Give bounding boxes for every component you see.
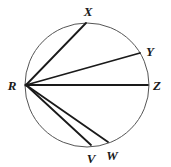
chord-r-w [26,85,108,142]
geometry-figure: R X Y Z W V [0,0,171,167]
point-label-y: Y [146,45,154,58]
point-label-w: W [106,149,118,162]
point-label-r: R [8,79,17,92]
chord-r-y [26,53,140,85]
point-label-x: X [84,5,93,18]
chord-group [26,23,148,145]
point-label-z: Z [153,79,161,92]
geometry-canvas [0,0,171,167]
chord-r-v [26,85,91,145]
vertex-dot-r [24,83,27,86]
point-label-v: V [87,152,96,165]
